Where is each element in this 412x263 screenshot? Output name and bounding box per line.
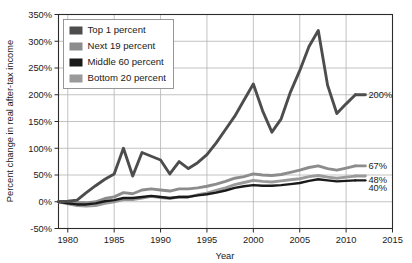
line-chart: -50%0%50%100%150%200%250%300%350% 198019… xyxy=(0,0,412,263)
x-axis-tick-labels: 19801985199019952000200520102015 xyxy=(57,235,402,245)
x-tick-label: 2000 xyxy=(243,235,264,245)
y-tick-label: -50% xyxy=(30,224,52,234)
y-tick-label: 200% xyxy=(28,90,52,100)
legend-swatch-middle-60-percent xyxy=(70,59,83,67)
x-tick-label: 2005 xyxy=(289,235,310,245)
y-tick-label: 50% xyxy=(33,170,52,180)
legend-label-top-1-percent: Top 1 percent xyxy=(88,24,146,35)
y-tick-label: 350% xyxy=(28,10,52,20)
end-label-top-1-percent: 200% xyxy=(368,90,392,100)
x-tick-label: 1995 xyxy=(197,235,218,245)
x-tick-label: 1990 xyxy=(150,235,171,245)
y-axis-tick-labels: -50%0%50%100%150%200%250%300%350% xyxy=(28,10,52,234)
legend-swatch-top-1-percent xyxy=(70,27,83,35)
y-tick-label: 300% xyxy=(28,37,52,47)
x-tick-label: 1985 xyxy=(104,235,125,245)
x-tick-label: 2015 xyxy=(382,235,403,245)
end-label-next-19-percent: 67% xyxy=(368,161,387,171)
x-tick-label: 1980 xyxy=(57,235,78,245)
y-tick-label: 150% xyxy=(28,117,52,127)
x-tick-label: 2010 xyxy=(336,235,357,245)
y-tick-label: 0% xyxy=(39,197,52,207)
x-axis-title: Year xyxy=(216,251,235,261)
legend-label-bottom-20-percent: Bottom 20 percent xyxy=(88,72,167,83)
y-tick-label: 250% xyxy=(28,63,52,73)
legend-label-next-19-percent: Next 19 percent xyxy=(88,40,156,51)
chart-container: -50%0%50%100%150%200%250%300%350% 198019… xyxy=(0,0,412,263)
chart-legend: Top 1 percentNext 19 percentMiddle 60 pe… xyxy=(64,20,174,89)
y-tick-label: 100% xyxy=(28,144,52,154)
series-end-labels: 200%67%40%48% xyxy=(368,90,392,193)
legend-swatch-bottom-20-percent xyxy=(70,75,83,83)
legend-label-middle-60-percent: Middle 60 percent xyxy=(88,56,165,67)
y-axis-title: Percent change in real after-tax income xyxy=(5,40,15,202)
legend-swatch-next-19-percent xyxy=(70,43,83,51)
end-label-bottom-20-percent: 48% xyxy=(368,175,387,185)
